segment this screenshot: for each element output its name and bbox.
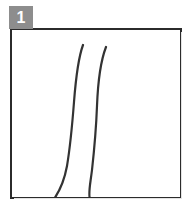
left-curve-stroke bbox=[54, 45, 83, 197]
panel-number-label: 1 bbox=[17, 10, 26, 26]
panel-number-badge: 1 bbox=[9, 6, 33, 29]
figure-panel: 1 bbox=[0, 0, 193, 205]
right-curve-stroke bbox=[89, 47, 106, 197]
figure-frame bbox=[10, 28, 182, 199]
line-drawing-canvas bbox=[12, 30, 180, 197]
